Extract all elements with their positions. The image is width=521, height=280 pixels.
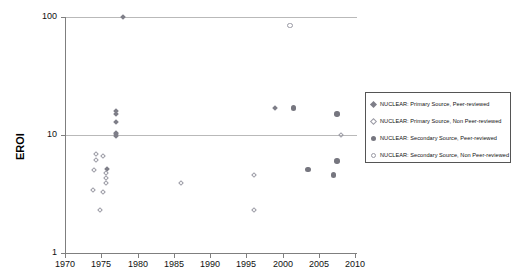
x-tick-label-2005: 2005 [299, 260, 339, 269]
data-point [251, 207, 257, 213]
data-point [331, 172, 337, 178]
x-tick-2010 [355, 254, 356, 258]
gridline-100 [65, 17, 357, 18]
x-tick-1975 [101, 254, 102, 258]
data-point [287, 23, 293, 29]
x-tick-2005 [319, 254, 320, 258]
data-point [178, 180, 184, 186]
data-point [91, 167, 97, 173]
y-axis-title: EROI [14, 133, 26, 160]
legend-label: NUCLEAR: Primary Source, Peer-reviewed [380, 101, 489, 107]
data-point [251, 172, 257, 178]
y-tick-label-100: 100 [23, 12, 57, 21]
eroi-scatter-chart: 1101001970197519801985199019952000200520… [0, 0, 521, 280]
legend-marker-open-diamond-icon [370, 117, 377, 124]
x-tick-label-2010: 2010 [335, 260, 375, 269]
chart-legend: NUCLEAR: Primary Source, Peer-reviewedNU… [365, 92, 511, 163]
data-point [101, 153, 107, 159]
data-point [113, 133, 119, 139]
data-point [103, 180, 109, 186]
legend-label: NUCLEAR: Secondary Source, Non Peer-revi… [380, 152, 509, 158]
x-tick-1985 [174, 254, 175, 258]
legend-marker-open-circle-icon [371, 153, 376, 158]
x-tick-1995 [246, 254, 247, 258]
data-point [113, 119, 119, 125]
y-tick-label-1: 1 [23, 248, 57, 257]
legend-item-1[interactable]: NUCLEAR: Primary Source, Non Peer-review… [371, 113, 501, 129]
data-point [101, 189, 107, 195]
data-point [97, 207, 103, 213]
legend-item-0[interactable]: NUCLEAR: Primary Source, Peer-reviewed [371, 96, 489, 112]
legend-label: NUCLEAR: Secondary Source, Peer-reviewed [380, 135, 497, 141]
x-tick-label-1990: 1990 [190, 260, 230, 269]
data-point [338, 132, 344, 138]
x-axis-line [65, 253, 357, 254]
x-tick-1980 [138, 254, 139, 258]
legend-marker-filled-diamond-icon [370, 100, 377, 107]
data-point [90, 187, 96, 193]
x-tick-1970 [65, 254, 66, 258]
y-tick-label-10: 10 [23, 130, 57, 139]
x-tick-label-1970: 1970 [45, 260, 85, 269]
x-tick-label-2000: 2000 [263, 260, 303, 269]
data-point [120, 14, 126, 20]
data-point [93, 151, 99, 157]
y-axis-line [65, 17, 66, 254]
x-tick-2000 [283, 254, 284, 258]
data-point [305, 167, 311, 173]
data-point [272, 105, 278, 111]
data-point [334, 158, 340, 164]
gridline-10 [65, 135, 357, 136]
x-tick-label-1985: 1985 [154, 260, 194, 269]
data-point [93, 157, 99, 163]
x-tick-label-1975: 1975 [81, 260, 121, 269]
data-point [334, 111, 340, 117]
legend-item-3[interactable]: NUCLEAR: Secondary Source, Non Peer-revi… [371, 147, 509, 163]
legend-item-2[interactable]: NUCLEAR: Secondary Source, Peer-reviewed [371, 130, 497, 146]
x-tick-label-1995: 1995 [226, 260, 266, 269]
data-point [113, 111, 119, 117]
x-tick-1990 [210, 254, 211, 258]
legend-marker-filled-circle-icon [371, 136, 376, 141]
legend-label: NUCLEAR: Primary Source, Non Peer-review… [380, 118, 501, 124]
data-point [291, 105, 297, 111]
x-tick-label-1980: 1980 [118, 260, 158, 269]
